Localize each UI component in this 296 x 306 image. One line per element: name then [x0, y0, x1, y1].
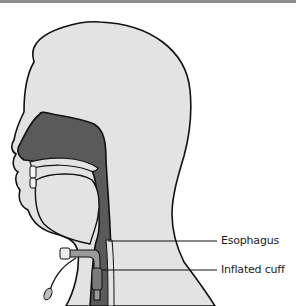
pilot-line	[50, 258, 76, 290]
label-inflated-cuff: Inflated cuff	[221, 263, 285, 276]
inflated-cuff	[92, 268, 102, 290]
anatomy-diagram	[0, 0, 296, 306]
pilot-balloon	[42, 287, 53, 301]
upper-teeth	[30, 166, 36, 178]
tongue	[35, 174, 99, 244]
lower-teeth	[30, 178, 36, 188]
label-esophagus: Esophagus	[221, 234, 279, 247]
tube-connector	[60, 248, 70, 259]
